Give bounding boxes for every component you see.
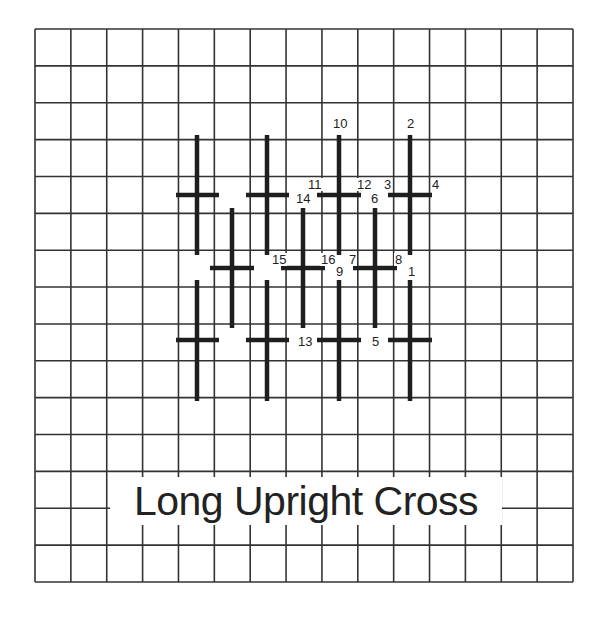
step-label: 3 [383,178,392,191]
step-label: 7 [348,253,357,266]
step-label: 4 [431,178,440,191]
step-label: 13 [297,335,313,348]
step-label: 12 [356,178,372,191]
step-label: 8 [394,253,403,266]
step-label: 15 [271,253,287,266]
canvas-grid [0,0,593,624]
step-label: 5 [371,335,380,348]
step-label: 14 [295,192,311,205]
diagram-title: Long Upright Cross [110,477,502,525]
step-label: 2 [406,117,415,130]
step-label: 16 [320,253,336,266]
step-label: 10 [332,117,348,130]
stitch-diagram: 10211123414615167891135 Long Upright Cro… [0,0,593,624]
step-label: 6 [370,192,379,205]
step-label: 9 [335,265,344,278]
step-label: 1 [407,265,416,278]
step-label: 11 [307,178,323,191]
